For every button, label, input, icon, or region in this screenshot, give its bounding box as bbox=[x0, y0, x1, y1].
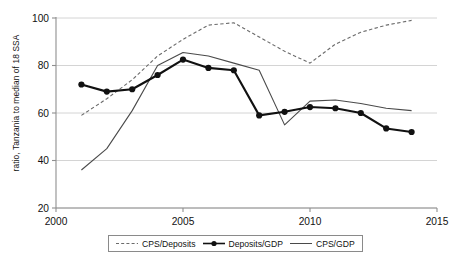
data-point-marker bbox=[282, 109, 288, 115]
y-tick-label: 60 bbox=[38, 108, 50, 119]
data-point-marker bbox=[409, 129, 415, 135]
data-point-marker bbox=[307, 104, 313, 110]
legend-label-cps-deposits: CPS/Deposits bbox=[142, 239, 196, 249]
data-point-marker bbox=[104, 89, 110, 95]
marker-line-icon bbox=[203, 239, 225, 248]
chart-figure: ratio, Tanzania to median of 18 SSA 2040… bbox=[0, 0, 449, 268]
y-tick-label: 20 bbox=[38, 203, 50, 214]
dashed-line-icon bbox=[116, 239, 138, 248]
series-deposits-gdp bbox=[78, 56, 414, 135]
legend-label-deposits-gdp: Deposits/GDP bbox=[229, 239, 283, 249]
gridlines bbox=[56, 18, 437, 208]
data-point-marker bbox=[358, 110, 364, 116]
legend-item-deposits-gdp: Deposits/GDP bbox=[203, 239, 283, 249]
solid-line-icon bbox=[290, 239, 312, 248]
plot-area: 20406080100 2000200520102015 bbox=[0, 0, 449, 268]
x-tick-label: 2010 bbox=[299, 216, 322, 227]
x-tick-label: 2000 bbox=[45, 216, 68, 227]
data-point-marker bbox=[383, 125, 389, 131]
data-point-marker bbox=[256, 112, 262, 118]
data-point-marker bbox=[231, 67, 237, 73]
legend-item-cps-deposits: CPS/Deposits bbox=[116, 239, 196, 249]
data-point-marker bbox=[205, 65, 211, 71]
legend-item-cps-gdp: CPS/GDP bbox=[290, 239, 355, 249]
y-tick-label: 80 bbox=[38, 60, 50, 71]
y-axis-ticks: 20406080100 bbox=[32, 13, 56, 214]
data-point-marker bbox=[155, 72, 161, 78]
data-point-marker bbox=[78, 81, 84, 87]
x-tick-label: 2005 bbox=[172, 216, 195, 227]
data-point-marker bbox=[180, 56, 186, 62]
x-axis-ticks: 2000200520102015 bbox=[45, 208, 449, 227]
y-tick-label: 40 bbox=[38, 155, 50, 166]
series-cps-deposits bbox=[81, 20, 411, 115]
legend-label-cps-gdp: CPS/GDP bbox=[316, 239, 355, 249]
data-point-marker bbox=[129, 86, 135, 92]
y-tick-label: 100 bbox=[32, 13, 49, 24]
data-point-marker bbox=[332, 105, 338, 111]
x-tick-label: 2015 bbox=[426, 216, 449, 227]
chart-legend: CPS/Deposits Deposits/GDP CPS/GDP bbox=[108, 235, 363, 252]
